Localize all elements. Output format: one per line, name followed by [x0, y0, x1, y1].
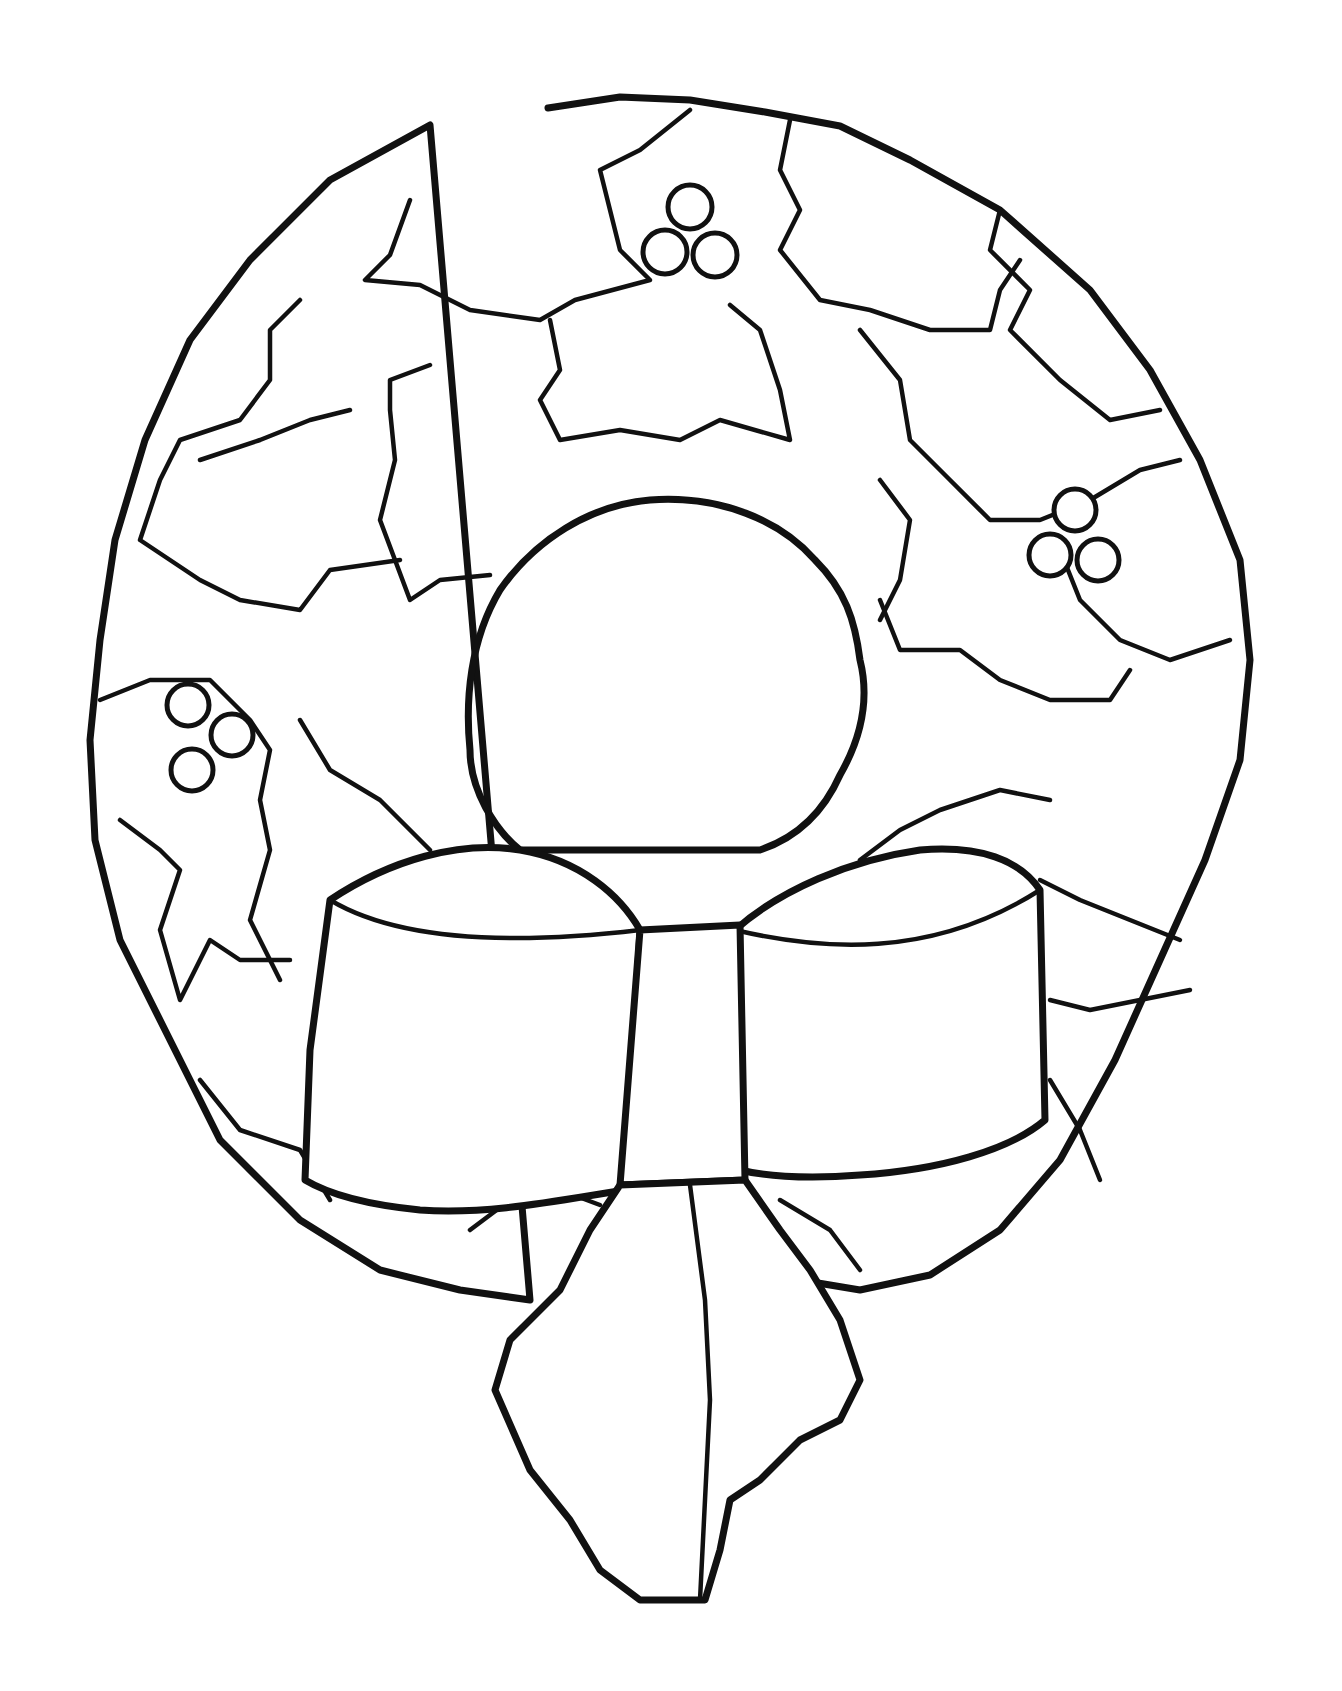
coloring-page — [0, 0, 1342, 1691]
berry-cluster-right — [1029, 489, 1119, 581]
bow — [305, 847, 1045, 1600]
berry-cluster-left — [167, 684, 253, 791]
bow-tail — [495, 1180, 860, 1600]
berry-cluster-top — [643, 185, 737, 277]
wreath-illustration — [0, 0, 1342, 1691]
bow-knot — [620, 925, 745, 1185]
